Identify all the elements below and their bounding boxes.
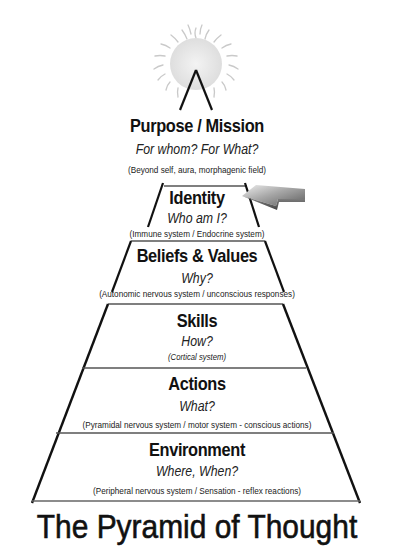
level-title: Beliefs & Values	[28, 245, 367, 267]
level-note: (Peripheral nervous system / Sensation -…	[28, 485, 367, 496]
level-question: Where, When?	[24, 463, 371, 479]
level-question: Why?	[24, 270, 371, 286]
level-question: What?	[24, 398, 371, 414]
level-title: Skills	[28, 310, 367, 332]
level-title: Purpose / Mission	[28, 115, 367, 137]
diagram-title: The Pyramid of Thought	[24, 507, 371, 546]
level-note: (Beyond self, aura, morphagenic field)	[28, 164, 367, 175]
sun-icon	[154, 25, 238, 97]
level-title: Environment	[28, 439, 367, 461]
level-note: (Cortical system)	[28, 352, 367, 362]
level-question: For whom? For What?	[24, 141, 371, 157]
level-question: How?	[24, 333, 371, 349]
level-note: (Pyramidal nervous system / motor system…	[28, 419, 367, 430]
level-title: Identity	[28, 187, 367, 209]
level-title: Actions	[28, 373, 367, 395]
level-question: Who am I?	[24, 210, 371, 226]
level-note: (Autonomic nervous system / unconscious …	[28, 288, 367, 299]
level-note: (Immune system / Endocrine system)	[28, 228, 367, 239]
